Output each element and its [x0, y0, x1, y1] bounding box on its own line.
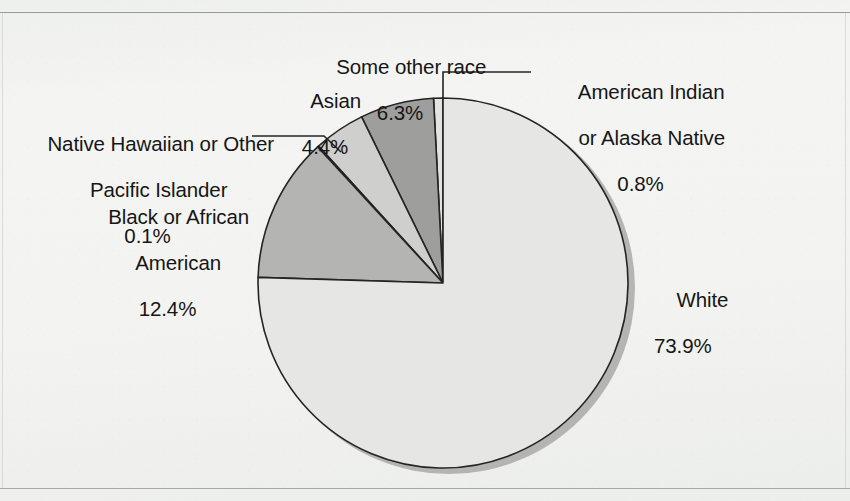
label-american-indian-line2: or Alaska Native — [578, 126, 725, 149]
label-american-indian: American Indian or Alaska Native 0.8% — [533, 57, 748, 241]
label-white: White 73.9% — [654, 265, 774, 403]
label-black-or-african-american: Black or African American 12.4% — [70, 182, 265, 366]
label-white-text: White — [676, 288, 728, 311]
label-asian-pct: 4.4% — [270, 135, 380, 158]
label-black-pct: 12.4% — [70, 297, 265, 320]
label-native-hawaiian-line1: Native Hawaiian or Other — [47, 132, 274, 155]
label-black-line2: American — [135, 251, 221, 274]
label-american-indian-pct: 0.8% — [533, 172, 748, 195]
label-white-pct: 73.9% — [654, 334, 774, 357]
label-american-indian-line1: American Indian — [578, 80, 725, 103]
label-asian: Asian 4.4% — [270, 66, 380, 204]
chart-page: Some other race 6.3% Asian 4.4% American… — [0, 0, 850, 501]
label-asian-text: Asian — [310, 89, 361, 112]
label-black-line1: Black or African — [108, 205, 249, 228]
